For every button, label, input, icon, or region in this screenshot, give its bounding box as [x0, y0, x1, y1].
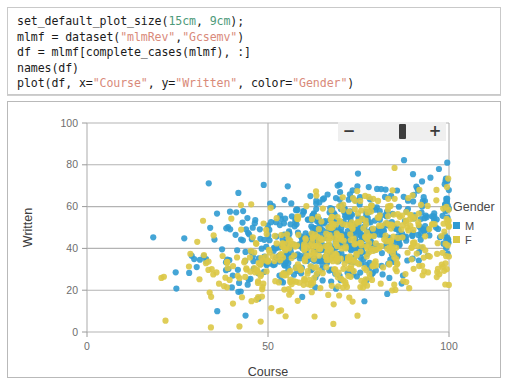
data-point: [291, 252, 297, 258]
y-tick-label: 20: [66, 284, 78, 296]
plot-zoom-control[interactable]: − +: [338, 122, 446, 141]
cell-separator: [7, 95, 501, 96]
data-point: [369, 277, 375, 283]
data-point: [295, 232, 301, 238]
data-point: [345, 266, 351, 272]
data-point: [235, 190, 241, 196]
data-point: [309, 289, 315, 295]
data-point: [403, 279, 409, 285]
data-point: [234, 247, 240, 253]
data-point: [445, 176, 451, 182]
data-point: [242, 258, 248, 264]
data-point: [320, 205, 326, 211]
data-point: [388, 222, 394, 228]
data-point: [228, 216, 234, 222]
code-line-3: df = mlmf[complete_cases(mlmf), :]: [17, 45, 498, 61]
data-point: [374, 186, 380, 192]
data-point: [375, 198, 381, 204]
legend-entry-m[interactable]: M: [453, 219, 501, 232]
data-point: [313, 188, 319, 194]
data-point: [335, 283, 341, 289]
data-point: [406, 285, 412, 291]
data-point: [363, 243, 369, 249]
data-point: [265, 257, 271, 263]
data-point: [236, 323, 242, 329]
legend-entry-f[interactable]: F: [453, 233, 501, 246]
data-point: [384, 291, 390, 297]
data-point: [206, 180, 212, 186]
zoom-slider-handle[interactable]: [399, 124, 406, 139]
data-point: [363, 218, 369, 224]
data-point: [233, 209, 239, 215]
data-point: [173, 285, 179, 291]
code-line-2: mlmf = dataset("mlmRev","Gcsemv"): [17, 30, 498, 46]
data-point: [261, 182, 267, 188]
data-point: [441, 268, 447, 274]
data-point: [214, 308, 220, 314]
legend-label-m: M: [465, 220, 474, 232]
data-point: [442, 281, 448, 287]
data-point: [240, 237, 246, 243]
x-tick-label: 0: [84, 340, 90, 352]
data-point: [258, 318, 264, 324]
data-point: [364, 253, 370, 259]
data-point: [340, 207, 346, 213]
data-point: [325, 191, 331, 197]
data-point: [203, 260, 209, 266]
data-point: [409, 256, 415, 262]
zoom-slider-track[interactable]: [356, 122, 428, 141]
data-point: [411, 266, 417, 272]
data-point: [239, 219, 245, 225]
data-point: [378, 223, 384, 229]
data-point: [380, 264, 386, 270]
code-token: names(df): [17, 61, 79, 75]
data-point: [328, 207, 334, 213]
scatter-plot-svg: 020406080100050100CourseWritten: [8, 102, 500, 377]
data-point: [297, 264, 303, 270]
data-point: [272, 233, 278, 239]
data-point: [389, 287, 395, 293]
data-point: [337, 181, 343, 187]
zoom-out-icon[interactable]: −: [342, 124, 356, 139]
data-point: [392, 196, 398, 202]
data-point: [404, 250, 410, 256]
data-point: [225, 265, 231, 271]
data-point: [325, 292, 331, 298]
data-point: [328, 225, 334, 231]
data-point: [373, 262, 379, 268]
code-cell[interactable]: set_default_plot_size(15cm, 9cm);mlmf = …: [7, 7, 501, 95]
data-point: [426, 226, 432, 232]
data-point: [227, 209, 233, 215]
zoom-in-icon[interactable]: +: [428, 124, 442, 139]
data-point: [360, 225, 366, 231]
data-point: [370, 226, 376, 232]
data-point: [285, 183, 291, 189]
data-point: [331, 301, 337, 307]
data-point: [240, 208, 246, 214]
data-point: [310, 235, 316, 241]
data-point: [349, 298, 355, 304]
data-point: [383, 186, 389, 192]
data-point: [427, 253, 433, 259]
data-point: [268, 305, 274, 311]
code-token: plot(df, x=: [17, 76, 93, 90]
x-tick-label: 100: [440, 340, 458, 352]
code-cell-source[interactable]: set_default_plot_size(15cm, 9cm);mlmf = …: [17, 14, 498, 92]
data-point: [259, 284, 265, 290]
data-point: [420, 272, 426, 278]
data-point: [306, 252, 312, 258]
data-point: [354, 188, 360, 194]
data-point: [230, 263, 236, 269]
data-point: [363, 206, 369, 212]
data-point: [385, 213, 391, 219]
data-point: [253, 241, 259, 247]
data-point: [369, 246, 375, 252]
data-point: [323, 264, 329, 270]
data-point: [416, 187, 422, 193]
data-point: [242, 274, 248, 280]
data-point: [375, 214, 381, 220]
data-point: [343, 243, 349, 249]
data-point: [187, 251, 193, 257]
data-point: [422, 215, 428, 221]
data-point: [333, 195, 339, 201]
